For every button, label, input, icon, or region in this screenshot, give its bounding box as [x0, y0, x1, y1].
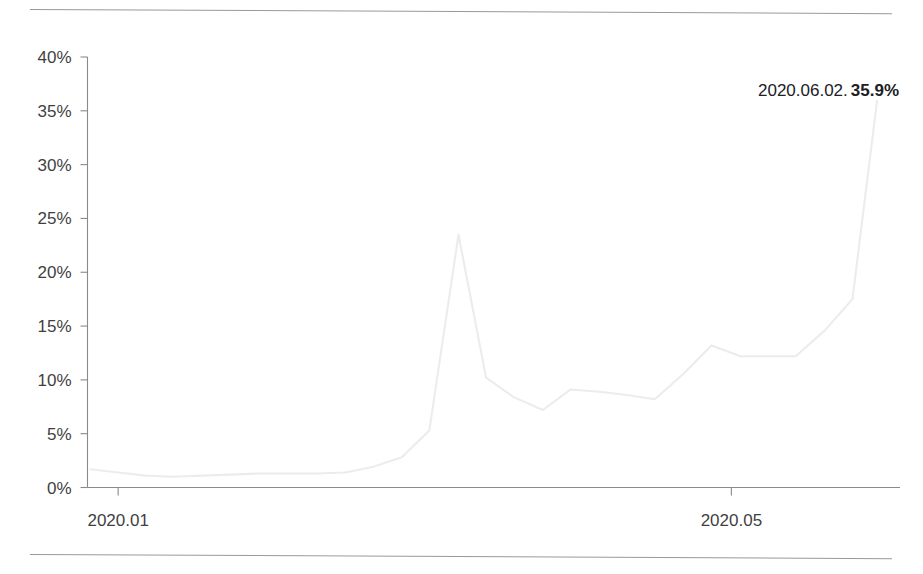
y-axis-tick-label: 35%: [0, 102, 72, 119]
y-axis-tick-label: 10%: [0, 371, 72, 388]
x-axis-tick-label: 2020.01: [87, 512, 148, 529]
y-axis-tick-label: 0%: [0, 479, 72, 496]
chart-page: 0%5%10%15%20%25%30%35%40% 2020.012020.05…: [0, 0, 923, 574]
data-series-line: [91, 101, 877, 477]
y-axis-tick-label: 20%: [0, 264, 72, 281]
x-axis-tick-label: 2020.05: [701, 512, 762, 529]
y-axis-tick-label: 30%: [0, 156, 72, 173]
y-axis-tick-label: 15%: [0, 318, 72, 335]
y-axis-tick-label: 25%: [0, 210, 72, 227]
annotation-value: 35.9%: [851, 81, 899, 100]
y-axis-tick-label: 40%: [0, 49, 72, 66]
y-axis-tick-label: 5%: [0, 425, 72, 442]
y-axis: [81, 57, 88, 488]
endpoint-annotation: 2020.06.02.35.9%: [758, 81, 899, 101]
x-axis: [88, 488, 901, 496]
annotation-date: 2020.06.02.: [758, 81, 848, 100]
